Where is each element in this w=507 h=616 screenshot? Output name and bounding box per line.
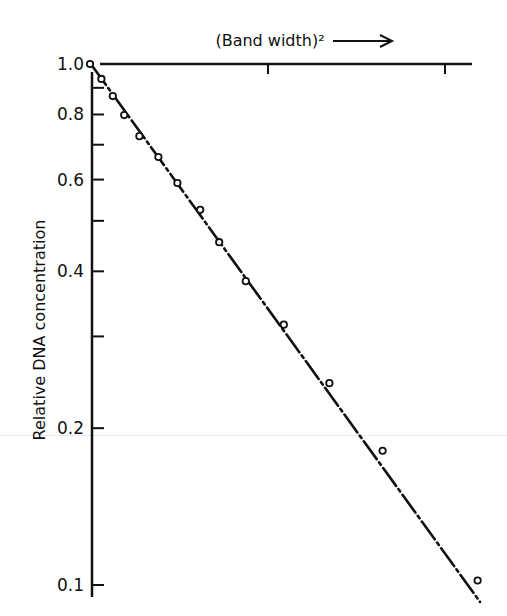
data-points (87, 61, 481, 584)
data-point-marker (98, 76, 104, 82)
data-point-marker (110, 93, 116, 99)
data-point-marker (87, 61, 93, 67)
chart: 1.00.80.60.40.20.1 Relative DNA concentr… (0, 0, 507, 616)
data-point-marker (281, 321, 287, 327)
data-point-marker (326, 380, 332, 386)
data-point-marker (216, 239, 222, 245)
y-tick-label: 1.0 (57, 54, 84, 74)
y-tick-label: 0.8 (57, 104, 84, 124)
y-tick-label: 0.1 (57, 575, 84, 595)
data-point-marker (243, 278, 249, 284)
data-point-marker (121, 112, 127, 118)
x-axis (100, 64, 472, 74)
axis-labels: Relative DNA concentration (Band width)² (30, 31, 392, 440)
y-tick-label: 0.2 (57, 418, 84, 438)
fit-line (93, 67, 480, 602)
x-axis-arrow-icon (333, 35, 392, 47)
data-point-marker (474, 577, 480, 583)
regression-line (93, 67, 480, 602)
data-point-marker (155, 154, 161, 160)
x-axis-title: (Band width)² (215, 31, 324, 50)
y-axis: 1.00.80.60.40.20.1 (57, 54, 104, 597)
data-point-marker (136, 133, 142, 139)
y-tick-label: 0.4 (57, 261, 84, 281)
y-tick-label: 0.6 (57, 170, 84, 190)
y-axis-title: Relative DNA concentration (30, 220, 49, 441)
data-point-marker (174, 180, 180, 186)
data-point-marker (379, 448, 385, 454)
data-point-marker (197, 207, 203, 213)
